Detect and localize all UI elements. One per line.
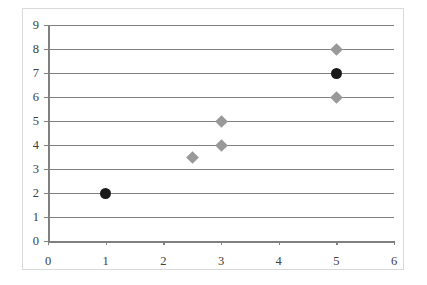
data-point-diamond (215, 139, 228, 152)
y-axis-tick-label: 3 (33, 163, 39, 176)
y-axis-tick-label: 5 (33, 115, 39, 128)
data-point-circle (100, 188, 111, 199)
gridline-horizontal (48, 25, 394, 26)
data-point-diamond (330, 91, 343, 104)
x-axis-tick (163, 241, 164, 245)
gridline-horizontal (48, 217, 394, 218)
y-axis-tick-label: 0 (33, 235, 39, 248)
y-axis-tick-label: 2 (33, 187, 39, 200)
y-axis-tick-label: 7 (33, 67, 39, 80)
x-axis-tick-label: 1 (103, 255, 109, 268)
scatter-plot: 0123456789 0123456 (0, 0, 427, 285)
x-axis-tick (336, 241, 337, 245)
x-axis-tick-label: 6 (391, 255, 397, 268)
y-axis-tick-label: 6 (33, 91, 39, 104)
data-point-diamond (186, 151, 199, 164)
gridline-horizontal (48, 169, 394, 170)
y-axis-tick (44, 145, 48, 146)
x-axis-tick (48, 241, 49, 245)
y-axis-tick (44, 217, 48, 218)
x-axis-tick-label: 5 (333, 255, 339, 268)
y-axis-tick-label: 1 (33, 211, 39, 224)
data-point-diamond (215, 115, 228, 128)
y-axis-tick (44, 25, 48, 26)
x-axis-tick-label: 4 (276, 255, 282, 268)
y-axis-tick (44, 121, 48, 122)
x-axis-tick (221, 241, 222, 245)
y-axis-tick-label: 4 (33, 139, 39, 152)
y-axis-line (48, 25, 50, 241)
y-axis-tick (44, 97, 48, 98)
x-axis-tick (279, 241, 280, 245)
x-axis-tick (394, 241, 395, 245)
y-axis-tick-label: 8 (33, 43, 39, 56)
x-axis-tick-label: 3 (218, 255, 224, 268)
x-axis-tick (106, 241, 107, 245)
gridline-horizontal (48, 73, 394, 74)
y-axis-tick (44, 73, 48, 74)
y-axis-tick (44, 49, 48, 50)
y-axis-tick (44, 193, 48, 194)
data-point-diamond (330, 43, 343, 56)
data-point-circle (331, 68, 342, 79)
x-axis-tick-label: 0 (45, 255, 51, 268)
y-axis-tick-label: 9 (33, 19, 39, 32)
y-axis-tick (44, 169, 48, 170)
x-axis-tick-label: 2 (160, 255, 166, 268)
